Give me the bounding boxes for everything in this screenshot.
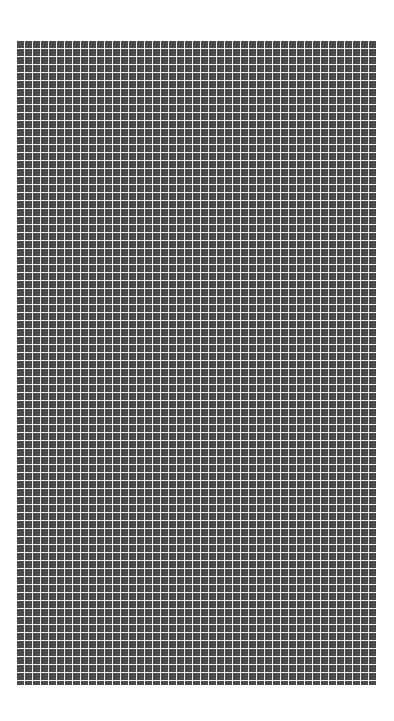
- page: [0, 0, 394, 721]
- grid-pattern: [17, 41, 376, 685]
